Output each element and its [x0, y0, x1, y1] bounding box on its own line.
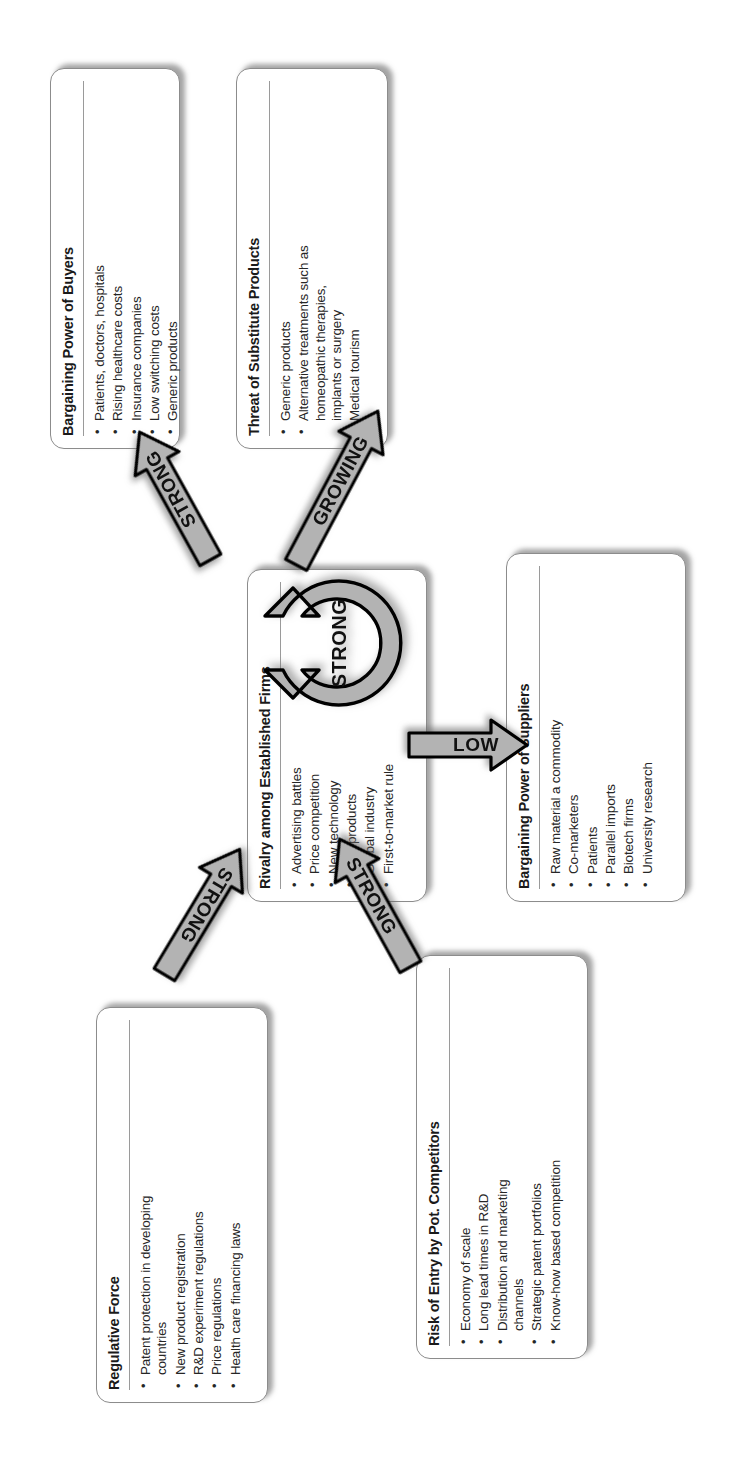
list-item-continuation: homeopathic therapies,	[312, 81, 329, 436]
force-list-substitutes: Generic products Alternative treatments …	[277, 81, 365, 436]
force-box-substitutes: Threat of Substitute Products Generic pr…	[236, 68, 388, 449]
list-item: Raw material a commodity	[547, 566, 564, 889]
list-item: Price regulations	[208, 1020, 225, 1390]
force-list-regulative: Patent protection in developing countrie…	[137, 1020, 246, 1390]
list-item: Economy of scale	[457, 968, 474, 1346]
list-item: Patients, doctors, hospitals	[91, 81, 108, 436]
list-item: Distribution and marketing	[494, 968, 511, 1346]
force-box-suppliers: Bargaining Power of Suppliers Raw materi…	[506, 553, 686, 902]
list-item-continuation: implants or surgery	[328, 81, 345, 436]
arrow-suppliers: LOW	[407, 718, 529, 772]
force-title-regulative: Regulative Force	[106, 1020, 130, 1390]
list-item: University research	[639, 566, 656, 889]
diagram-canvas: Bargaining Power of Buyers Patients, doc…	[0, 0, 741, 1457]
list-item: Medical tourism	[346, 81, 363, 436]
force-list-entry: Economy of scale Long lead times in R&D …	[457, 968, 566, 1346]
list-item: Patients	[584, 566, 601, 889]
list-item: Know-how based competition	[547, 968, 564, 1346]
arrow-shape	[407, 718, 529, 772]
list-item-continuation: channels	[510, 968, 527, 1346]
list-item: Strategic patent portfolios	[528, 968, 545, 1346]
list-item: Biotech firms	[620, 566, 637, 889]
list-item: Rising healthcare costs	[109, 81, 126, 436]
list-item: R&D experiment regulations	[190, 1020, 207, 1390]
arrow-buyers: STRONG	[115, 417, 235, 574]
list-item: Long lead times in R&D	[475, 968, 492, 1346]
force-title-entry: Risk of Entry by Pot. Competitors	[426, 968, 450, 1346]
list-item: Insurance companies	[128, 81, 145, 436]
arrow-shape	[115, 417, 235, 574]
arrow-regulative: STRONG	[140, 834, 264, 990]
list-item-continuation: countries	[153, 1020, 170, 1390]
rivalry-circular-arrow: STRONG	[262, 566, 416, 720]
list-item: Generic products	[164, 81, 181, 436]
rivalry-intensity-label: STRONG	[262, 566, 416, 720]
list-item: New product registration	[172, 1020, 189, 1390]
list-item: Co-marketers	[565, 566, 582, 889]
force-list-suppliers: Raw material a commodity Co-marketers Pa…	[547, 566, 658, 889]
force-list-buyers: Patients, doctors, hospitals Rising heal…	[91, 81, 183, 436]
force-box-regulative: Regulative Force Patent protection in de…	[96, 1007, 268, 1403]
list-item: Alternative treatments such as	[295, 81, 312, 436]
arrow-shape	[140, 834, 264, 990]
list-item: Generic products	[277, 81, 294, 436]
list-item: Parallel imports	[602, 566, 619, 889]
force-box-entry: Risk of Entry by Pot. Competitors Econom…	[416, 955, 588, 1359]
force-box-buyers: Bargaining Power of Buyers Patients, doc…	[50, 68, 180, 449]
list-item: Patent protection in developing	[137, 1020, 154, 1390]
force-title-buyers: Bargaining Power of Buyers	[60, 81, 84, 436]
force-title-substitutes: Threat of Substitute Products	[246, 81, 270, 436]
list-item: Health care financing laws	[227, 1020, 244, 1390]
list-item: Low switching costs	[146, 81, 163, 436]
